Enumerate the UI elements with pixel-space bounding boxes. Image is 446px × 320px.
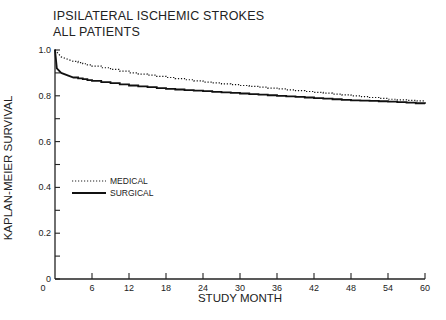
x-tick-label: 48	[346, 283, 356, 293]
x-tick-label: 54	[383, 283, 393, 293]
legend-label-medical: MEDICAL	[110, 176, 148, 186]
legend-item-surgical: SURGICAL	[72, 187, 153, 199]
y-tick-label: 0.8	[38, 91, 51, 101]
x-tick-label: 18	[161, 283, 171, 293]
x-tick-label: 6	[89, 283, 94, 293]
y-tick-label: 0.2	[38, 228, 51, 238]
x-tick-label: 42	[309, 283, 319, 293]
legend-item-medical: MEDICAL	[72, 175, 153, 187]
x-axis-label: STUDY MONTH	[198, 292, 282, 304]
x-tick-label: 60	[420, 283, 430, 293]
surgical-curve	[55, 50, 425, 104]
legend-label-surgical: SURGICAL	[110, 188, 153, 198]
series-lines	[55, 50, 425, 104]
axes: 00.20.40.60.81.006121824303642485460	[38, 45, 430, 293]
legend: MEDICAL SURGICAL	[72, 175, 153, 199]
dotted-line-swatch-icon	[72, 178, 106, 184]
y-tick-label: 1.0	[38, 45, 51, 55]
y-tick-label: 0	[46, 274, 51, 284]
plot-area: 00.20.40.60.81.006121824303642485460	[0, 0, 446, 320]
solid-line-swatch-icon	[72, 190, 106, 196]
x-tick-label: 0	[40, 283, 45, 293]
y-axis-label: KAPLAN-MEIER SURVIVAL	[2, 96, 14, 241]
x-tick-label: 12	[124, 283, 134, 293]
y-tick-label: 0.6	[38, 137, 51, 147]
y-tick-label: 0.4	[38, 182, 51, 192]
